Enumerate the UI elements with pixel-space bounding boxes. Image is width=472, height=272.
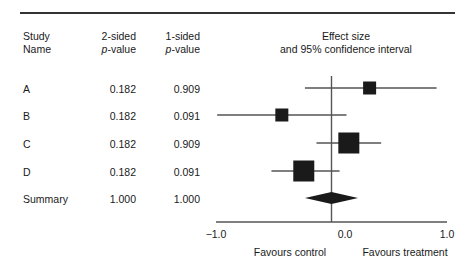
p-value-suffix: -value: [171, 43, 200, 55]
column-header-one-sided-line2: p-value: [144, 43, 200, 56]
favours-treatment-label: Favours treatment: [345, 246, 465, 258]
table-row-name: B: [23, 111, 83, 122]
table-row-name: D: [23, 167, 83, 178]
table-row-name: A: [23, 84, 83, 95]
study-effect-marker: [293, 161, 314, 182]
study-effect-marker: [363, 82, 376, 95]
plot-title-line2: and 95% confidence interval: [232, 43, 460, 56]
column-header-study-name: Study Name: [23, 30, 51, 55]
study-effect-marker: [338, 133, 359, 154]
favours-control-label: Favours control: [232, 246, 348, 258]
table-row-p-one-sided: 0.091: [144, 167, 200, 178]
plot-title: Effect size and 95% confidence interval: [232, 30, 460, 55]
table-row-name: C: [23, 139, 83, 150]
header-rule: [20, 12, 455, 14]
table-row-p-two-sided: 0.182: [80, 167, 136, 178]
column-header-one-sided-line1: 1-sided: [144, 30, 200, 43]
summary-effect-diamond: [305, 192, 358, 204]
plot-title-line1: Effect size: [232, 30, 460, 43]
table-row-p-one-sided: 0.091: [144, 111, 200, 122]
table-row-p-two-sided: 0.182: [80, 139, 136, 150]
table-row-name-summary: Summary: [23, 194, 83, 205]
table-row-p-one-sided-summary: 1.000: [144, 194, 200, 205]
column-header-one-sided-p: 1-sided p-value: [144, 30, 200, 55]
x-tick-label-one: 1.0: [424, 228, 470, 240]
table-row-p-one-sided: 0.909: [144, 84, 200, 95]
table-row-p-two-sided-summary: 1.000: [80, 194, 136, 205]
column-header-two-sided-line2: p-value: [80, 43, 136, 56]
column-header-study-line2: Name: [23, 43, 51, 56]
study-effect-marker: [275, 109, 288, 122]
x-tick-label-neg-one: −1.0: [193, 228, 239, 240]
table-row-p-one-sided: 0.909: [144, 139, 200, 150]
forest-plot-figure: Study Name 2-sided p-value 1-sided p-val…: [0, 0, 472, 272]
p-value-suffix: -value: [107, 43, 136, 55]
x-tick-label-zero: 0.0: [322, 228, 368, 240]
column-header-two-sided-line1: 2-sided: [80, 30, 136, 43]
table-row-p-two-sided: 0.182: [80, 111, 136, 122]
column-header-two-sided-p: 2-sided p-value: [80, 30, 136, 55]
table-row-p-two-sided: 0.182: [80, 84, 136, 95]
column-header-study-line1: Study: [23, 30, 51, 43]
